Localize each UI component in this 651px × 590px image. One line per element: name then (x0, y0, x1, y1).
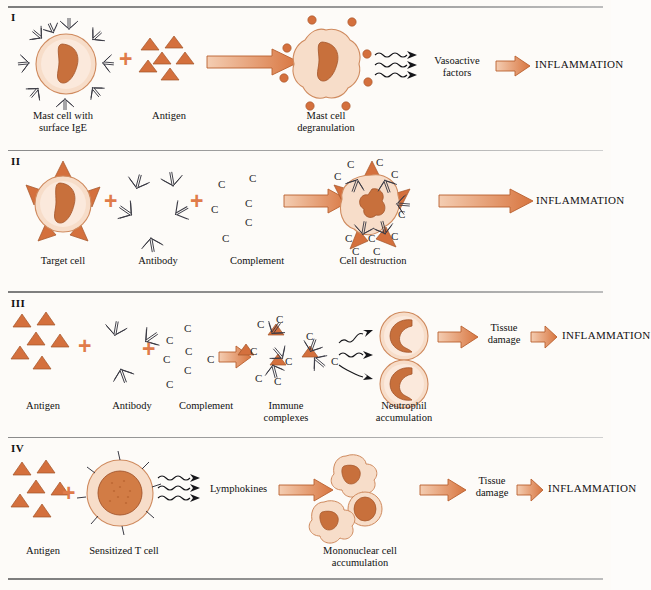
panel4-damage-arrow (419, 478, 467, 502)
divider-bottom (8, 578, 603, 580)
complement-letter: C (276, 313, 283, 325)
divider-top (8, 6, 603, 8)
complement-letter: C (285, 355, 292, 367)
panel1-outcome-arrow (495, 55, 531, 77)
panel4-antigen-label: Antigen (6, 545, 80, 557)
panel4-plus-icon: + (62, 482, 75, 505)
panel1-antigen-cluster (140, 36, 198, 88)
panel3-squiggle-arrows (338, 325, 382, 385)
panel4-outcome-label: INFLAMMATION (548, 482, 637, 494)
complement-letter: C (211, 203, 218, 215)
panel1-cell-label: Mast cell with surface IgE (8, 110, 118, 134)
panel3-cells-label: Neutrophil accumulation (358, 400, 450, 424)
panel2-outcome-label: INFLAMMATION (536, 194, 625, 206)
panel3-damage-arrow (437, 325, 479, 349)
panel3-antigen-cluster (12, 310, 74, 380)
mononuclear-cell-accumulation (308, 450, 412, 546)
panel1-plus-icon: + (119, 48, 132, 71)
panel3-damage-label: Tissue damage (478, 322, 530, 346)
panel1-outcome-label: INFLAMMATION (535, 58, 624, 70)
complement-letter: C (250, 345, 257, 357)
complement-letter: C (184, 322, 191, 334)
complement-letter: C (391, 168, 398, 180)
complement-letter: C (274, 375, 281, 387)
panel3-outcome-label: INFLAMMATION (562, 329, 651, 341)
panel2-plus-icon-2: + (190, 190, 203, 213)
complement-letter: C (249, 172, 256, 184)
panel4-damage-label: Tissue damage (466, 475, 518, 499)
panel4-lymphokine-squiggles (157, 473, 209, 505)
panel2-antibody-cluster (118, 165, 198, 245)
complement-letter: C (245, 197, 252, 209)
divider-panel-1-2 (8, 150, 603, 151)
neutrophil-upper (378, 310, 430, 362)
panel3-outcome-arrow (530, 325, 558, 349)
panel2-plus-icon-1: + (104, 190, 117, 213)
complement-letter: C (166, 378, 173, 390)
complement-letter: C (184, 364, 191, 376)
panel-numeral-4: IV (11, 442, 24, 454)
panel4-cell-label: Sensitized T cell (76, 545, 172, 557)
complement-letter: C (345, 232, 352, 244)
divider-panel-2-3 (8, 291, 603, 293)
complement-letter: C (306, 330, 313, 342)
panel3-complexes-label: Immune complexes (243, 400, 329, 424)
target-cell (22, 163, 104, 245)
complement-letter: C (163, 353, 170, 365)
complement-letter: C (185, 345, 192, 357)
panel4-outcome-arrow (516, 478, 544, 502)
divider-panel-3-4 (8, 437, 603, 438)
panel2-antibody-label: Antibody (118, 255, 198, 267)
panel1-antigen-label: Antigen (129, 110, 209, 122)
degranulating-mast-cell (280, 18, 372, 110)
complement-letter: C (376, 156, 383, 168)
complement-letter: C (218, 178, 225, 190)
complement-letter: C (334, 170, 341, 182)
panel3-plus-icon-1: + (78, 335, 91, 358)
complement-letter: C (255, 372, 262, 384)
panel1-product-label: Mast cell degranulation (278, 110, 374, 134)
complement-letter: C (257, 318, 264, 330)
panel2-product-label: Cell destruction (325, 255, 421, 267)
complement-letter: C (222, 232, 229, 244)
panel2-complement-label: Complement (207, 255, 307, 267)
panel3-plus-icon-2: + (142, 338, 155, 361)
complement-letter: C (368, 232, 375, 244)
panel3-complement-label: Complement (160, 400, 252, 412)
complement-letter: C (347, 158, 354, 170)
complement-letter: C (398, 208, 405, 220)
complement-letter: C (166, 334, 173, 346)
panel3-antigen-label: Antigen (6, 400, 80, 412)
complement-letter: C (207, 353, 214, 365)
complement-letter: C (391, 230, 398, 242)
panel1-mediator-label: Vasoactive factors (425, 55, 489, 79)
panel4-product-label: Mononuclear cell accumulation (300, 545, 420, 569)
sensitized-t-cell (80, 453, 160, 533)
panel2-cell-label: Target cell (18, 255, 108, 267)
panel-numeral-2: II (11, 155, 21, 167)
panel2-outcome-arrow (438, 188, 534, 214)
mast-cell-with-ige (14, 18, 122, 108)
panel-numeral-3: III (11, 297, 25, 309)
panel1-vasoactive-squiggles (374, 50, 426, 82)
complement-letter: C (245, 216, 252, 228)
